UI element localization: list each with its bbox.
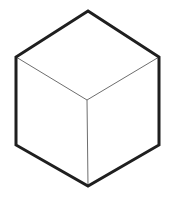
cube-figure xyxy=(0,0,171,202)
cube-svg xyxy=(0,0,171,202)
